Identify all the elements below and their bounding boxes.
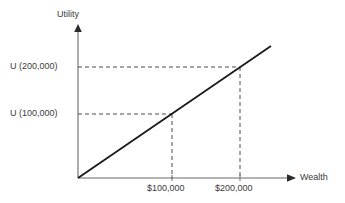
x-axis bbox=[78, 174, 296, 182]
y-axis-label: Utility bbox=[57, 9, 79, 20]
chart-canvas bbox=[0, 0, 345, 203]
y-tick-label-200k: U (200,000) bbox=[10, 61, 58, 72]
x-tick-label-200k: $200,000 bbox=[215, 183, 253, 194]
y-tick-label-100k: U (100,000) bbox=[10, 108, 58, 119]
x-axis-arrow-icon bbox=[287, 174, 296, 182]
y-axis-arrow-icon bbox=[74, 24, 82, 32]
y-axis bbox=[74, 24, 82, 178]
utility-function-line bbox=[78, 46, 271, 178]
x-tick-label-100k: $100,000 bbox=[147, 183, 185, 194]
utility-wealth-chart: Utility Wealth U (200,000) U (100,000) $… bbox=[0, 0, 345, 203]
x-axis-label: Wealth bbox=[300, 172, 328, 183]
